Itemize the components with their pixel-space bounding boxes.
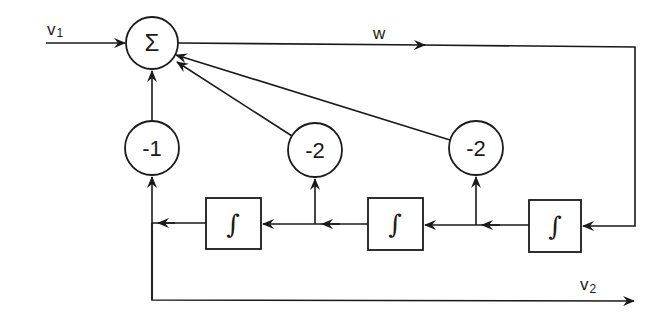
gain-middle: -2: [288, 123, 342, 177]
gain-right: -2: [449, 121, 503, 175]
integrator-middle: ∫: [368, 198, 423, 250]
integral-icon: ∫: [548, 211, 562, 241]
input-label: v1: [47, 20, 64, 40]
integrator-right: ∫: [529, 200, 581, 252]
gain-left: -1: [125, 121, 179, 175]
output-label: v2: [580, 275, 597, 296]
integral-icon: ∫: [388, 209, 402, 239]
forward-path-w: w: [178, 24, 635, 226]
input-signal-v1: v1: [46, 20, 125, 43]
gain-left-value: -1: [142, 136, 162, 161]
w-label: w: [372, 24, 386, 43]
integral-icon: ∫: [226, 209, 240, 239]
integrator-left: ∫: [206, 198, 261, 249]
summing-junction: Σ: [126, 17, 178, 69]
block-diagram: v1 Σ w ∫ ∫ ∫ -1 -2: [0, 0, 669, 320]
w-wire-arrow: [178, 43, 425, 45]
gain-right-value: -2: [466, 136, 486, 161]
sigma-symbol: Σ: [145, 29, 160, 56]
gain-middle-value: -2: [305, 138, 325, 163]
